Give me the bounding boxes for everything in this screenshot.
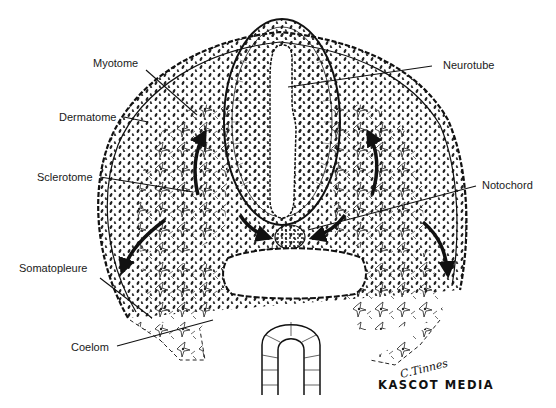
label-dermatome: Dermatome [59,111,116,123]
notochord [275,225,305,249]
label-neurotube: Neurotube [443,59,494,71]
gut-tube [262,322,320,395]
label-coelom: Coelom [71,341,109,353]
label-somatopleure: Somatopleure [19,262,88,274]
credit-kascot-media: KASCOT MEDIA [378,378,494,392]
label-sclerotome: Sclerotome [37,171,93,183]
neurotube [224,19,340,225]
label-notochord: Notochord [482,179,533,191]
label-myotome: Myotome [93,57,138,69]
dorsal-aorta-cavity [223,248,366,298]
